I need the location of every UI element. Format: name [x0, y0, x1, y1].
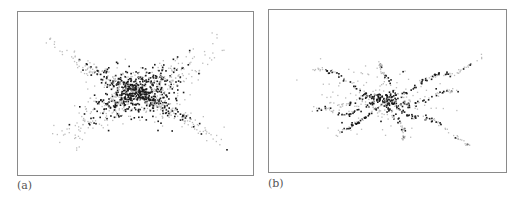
scatter-panel-a	[17, 11, 254, 176]
scatter-plot-b	[269, 10, 508, 174]
panel-label-b: (b)	[268, 177, 284, 190]
scatter-panel-b	[268, 9, 507, 173]
scatter-plot-a	[18, 12, 255, 177]
panel-label-a: (a)	[17, 179, 32, 192]
